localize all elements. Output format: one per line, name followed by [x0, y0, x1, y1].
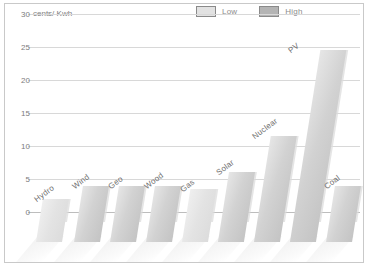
bar-front-face [146, 186, 181, 242]
bar-coal[interactable] [326, 186, 352, 242]
bar-nuclear[interactable] [254, 136, 280, 242]
bar-wind[interactable] [74, 186, 100, 242]
bar-front-face [74, 186, 109, 242]
bars-container: HydroWindGeoWoodGasSolarNuclearPVCoal [0, 0, 368, 270]
bar-hydro[interactable] [36, 199, 62, 242]
bar-front-face [326, 186, 361, 242]
bar-gas[interactable] [182, 189, 208, 242]
bar-wood[interactable] [146, 186, 172, 242]
bar-front-face [110, 186, 145, 242]
bar-front-face [182, 189, 216, 242]
bar-pv[interactable] [290, 50, 316, 242]
chart-frame: Low High cents/ Kwh 302520151050 HydroWi… [0, 0, 368, 270]
bar-solar[interactable] [218, 172, 244, 242]
bar-geo[interactable] [110, 186, 136, 242]
